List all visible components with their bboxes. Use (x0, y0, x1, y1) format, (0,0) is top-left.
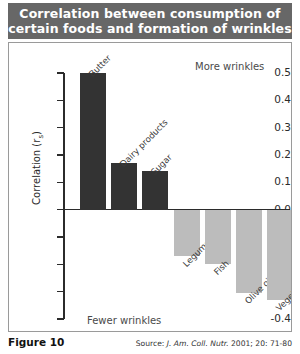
source-journal: J. Am. Coll. Nutr. (167, 339, 229, 348)
figure-caption: Figure 10 Source: J. Am. Coll. Nutr. 200… (8, 336, 292, 348)
y-axis-label-tail: ) (31, 131, 42, 135)
y-axis-label-subscript: s (37, 135, 45, 139)
y-axis-tick (57, 127, 64, 129)
figure-container: Correlation between consumption of certa… (0, 0, 300, 354)
y-axis-tick (57, 154, 64, 156)
bar-fish (205, 210, 231, 265)
figure-number: Figure 10 (8, 336, 64, 348)
y-axis-tick (57, 100, 64, 102)
chart-title-line-1: Correlation between consumption of (19, 6, 280, 21)
y-axis-tick (57, 291, 64, 293)
source-prefix: Source: (136, 339, 165, 348)
chart-title-banner: Correlation between consumption of certa… (8, 3, 292, 39)
bar-butter (80, 73, 106, 210)
y-axis-label: Correlation (rs) (31, 113, 45, 223)
figure-source: Source: J. Am. Coll. Nutr. 2001; 20: 71-… (136, 339, 292, 348)
bar-series: ButterDairy productsSugarLegumesFishOliv… (64, 43, 292, 332)
y-axis-tick (57, 209, 64, 211)
bar-olive-oil (236, 210, 262, 293)
annotation-fewer-wrinkles: Fewer wrinkles (87, 315, 161, 326)
y-axis-tick (57, 264, 64, 266)
plot-area: Correlation (rs) 0.50.40.30.20.10.0-0.1-… (8, 42, 292, 332)
y-axis-tick (57, 236, 64, 238)
bar-dairy-products (111, 163, 137, 209)
y-axis-tick (57, 182, 64, 184)
annotation-more-wrinkles: More wrinkles (195, 61, 264, 72)
bar-vegetables (267, 210, 292, 300)
y-axis-label-main: Correlation (r (31, 139, 42, 205)
source-citation: 2001; 20: 71-80 (231, 339, 292, 348)
y-axis-tick (57, 72, 64, 74)
y-axis-tick (57, 318, 64, 320)
chart-title-line-2: certain foods and formation of wrinkles (8, 21, 291, 36)
